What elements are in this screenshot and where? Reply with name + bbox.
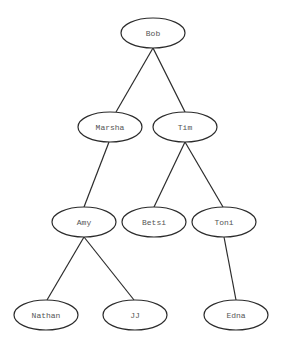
- edge-tim-betsi: [154, 142, 185, 207]
- node-bob: Bob: [121, 18, 185, 48]
- nodes-layer: BobMarshaTimAmyBetsiToniNathanJJEdna: [14, 18, 268, 330]
- node-label: Nathan: [32, 311, 61, 320]
- node-edna: Edna: [204, 300, 268, 330]
- edge-tim-toni: [185, 142, 223, 207]
- node-label: Marsha: [96, 123, 125, 132]
- node-label: Edna: [226, 311, 245, 320]
- edge-bob-tim: [153, 48, 185, 112]
- node-marsha: Marsha: [78, 112, 142, 142]
- node-betsi: Betsi: [122, 207, 186, 237]
- node-label: Betsi: [142, 218, 166, 227]
- node-label: JJ: [130, 311, 140, 320]
- edge-bob-marsha: [116, 48, 153, 112]
- edges-layer: [47, 48, 236, 300]
- node-amy: Amy: [52, 207, 116, 237]
- edge-marsha-amy: [84, 142, 109, 207]
- node-toni: Toni: [192, 207, 256, 237]
- edge-toni-edna: [224, 237, 236, 300]
- edge-amy-nathan: [47, 237, 84, 300]
- node-label: Amy: [77, 218, 92, 227]
- node-nathan: Nathan: [14, 300, 78, 330]
- node-label: Toni: [214, 218, 233, 227]
- node-label: Bob: [146, 29, 161, 38]
- node-tim: Tim: [153, 112, 217, 142]
- edge-amy-jj: [84, 237, 134, 300]
- node-label: Tim: [178, 123, 193, 132]
- tree-diagram: BobMarshaTimAmyBetsiToniNathanJJEdna: [0, 0, 284, 355]
- node-jj: JJ: [103, 300, 167, 330]
